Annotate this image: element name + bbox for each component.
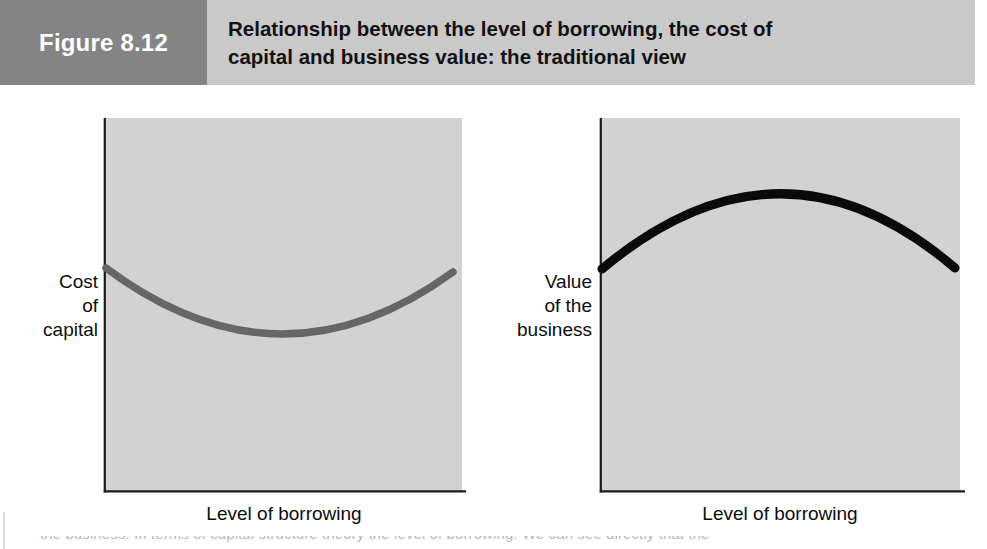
y-axis-title-line-1: Value: [470, 270, 592, 294]
y-axis-title-value-of-business: Value of the business: [470, 270, 592, 342]
value-of-business-chart: [600, 118, 965, 493]
cost-of-capital-chart: [104, 118, 466, 493]
y-axis-title-line-3: business: [470, 318, 592, 342]
y-axis-title-line-2: of: [8, 294, 98, 318]
y-axis-title-cost-of-capital: Cost of capital: [8, 270, 98, 342]
y-axis-title-line-1: Cost: [8, 270, 98, 294]
y-axis-title-line-2: of the: [470, 294, 592, 318]
figure-page: Figure 8.12 Relationship between the lev…: [0, 0, 987, 549]
x-axis-title-left: Level of borrowing: [104, 502, 464, 526]
y-axis-title-line-3: capital: [8, 318, 98, 342]
x-axis-title-right: Level of borrowing: [600, 502, 960, 526]
page-bottom-text: the business. In terms of capital struct…: [40, 536, 950, 542]
page-left-rule: [3, 512, 5, 549]
plot-area-background-right: [600, 118, 960, 492]
page-bottom-text-clip: the business. In terms of capital struct…: [40, 536, 950, 549]
